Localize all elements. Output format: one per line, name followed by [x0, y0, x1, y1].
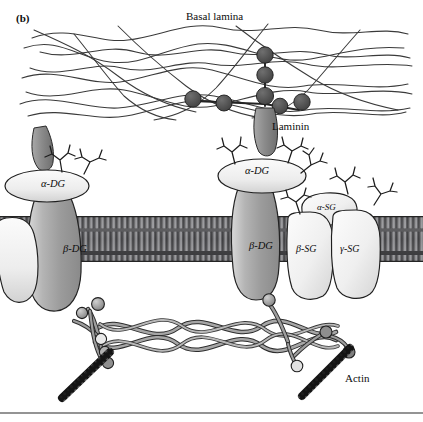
gamma-sg-label: γ-SG	[340, 243, 360, 254]
laminin-node	[216, 95, 232, 111]
dystroglycan-left-lobe	[0, 218, 38, 303]
laminin-node	[294, 94, 310, 110]
laminin-label: Laminin	[272, 120, 309, 132]
alpha-dg-right-label: α-DG	[245, 165, 269, 176]
actin-label: Actin	[345, 372, 369, 384]
beta-sarcoglycan	[287, 212, 333, 299]
laminin-node	[257, 67, 273, 83]
alpha-sg-label: α-SG	[317, 202, 336, 212]
dystrophin-glycoprotein-complex-diagram	[0, 0, 423, 422]
laminin-node	[185, 91, 201, 107]
beta-dg-right-label: β-DG	[249, 240, 273, 251]
laminin-node	[256, 87, 273, 104]
laminin-node	[257, 47, 273, 63]
basal-lamina-label: Basal lamina	[186, 10, 243, 22]
beta-dg-left-label: β-DG	[63, 243, 87, 254]
alpha-dg-left-label: α-DG	[41, 178, 65, 189]
panel-label: (b)	[16, 12, 29, 24]
beta-sg-label: β-SG	[296, 243, 317, 254]
gamma-sarcoglycan	[331, 210, 380, 298]
